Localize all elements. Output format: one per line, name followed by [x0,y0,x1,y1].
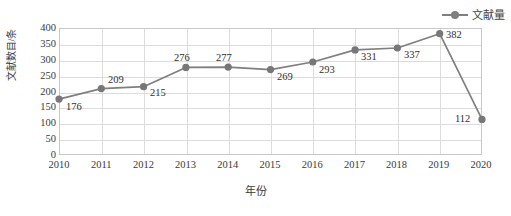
data-label: 269 [277,72,293,83]
data-label: 337 [404,50,420,61]
data-point-marker [225,64,232,71]
data-point-marker [352,46,359,53]
data-label: 209 [108,75,124,86]
line-chart: 文献量 400 350 300 250 200 150 100 50 0 文献数… [0,0,511,216]
data-label: 277 [216,53,232,64]
data-label: 331 [361,52,377,63]
data-label: 215 [150,88,166,99]
data-label: 112 [455,114,470,125]
data-point-marker [98,85,105,92]
data-label: 382 [446,30,462,41]
data-point-marker [436,30,443,37]
data-point-marker [478,116,485,123]
data-point-marker [267,66,274,73]
data-point-marker [55,96,62,103]
data-label: 293 [319,65,335,76]
data-point-marker [182,64,189,71]
data-label: 276 [174,53,190,64]
data-label: 176 [66,102,82,113]
data-point-marker [140,83,147,90]
data-point-marker [309,58,316,65]
data-point-marker [394,44,401,51]
